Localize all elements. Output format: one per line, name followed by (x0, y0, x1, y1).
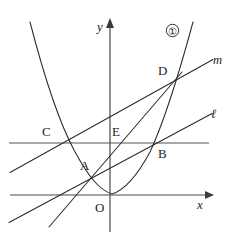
point-label-A: A (80, 158, 90, 173)
geometry-figure: ① y x O m ℓ C E B A D (0, 0, 238, 238)
point-label-D: D (158, 63, 167, 78)
y-axis-label: y (95, 19, 103, 34)
x-axis-label: x (196, 197, 203, 212)
x-axis-arrowhead (205, 191, 214, 199)
point-label-C: C (42, 124, 51, 139)
line-m (10, 60, 213, 173)
parabola-curve (30, 22, 193, 194)
point-label-B: B (158, 146, 167, 161)
origin-label: O (95, 200, 104, 215)
geometry-canvas: ① y x O m ℓ C E B A D (0, 0, 238, 238)
y-axis-arrowhead (106, 18, 114, 28)
point-label-E: E (112, 124, 120, 139)
curve-label-number: ① (168, 26, 177, 37)
line-m-label: m (213, 53, 222, 67)
line-l-label: ℓ (211, 107, 216, 121)
